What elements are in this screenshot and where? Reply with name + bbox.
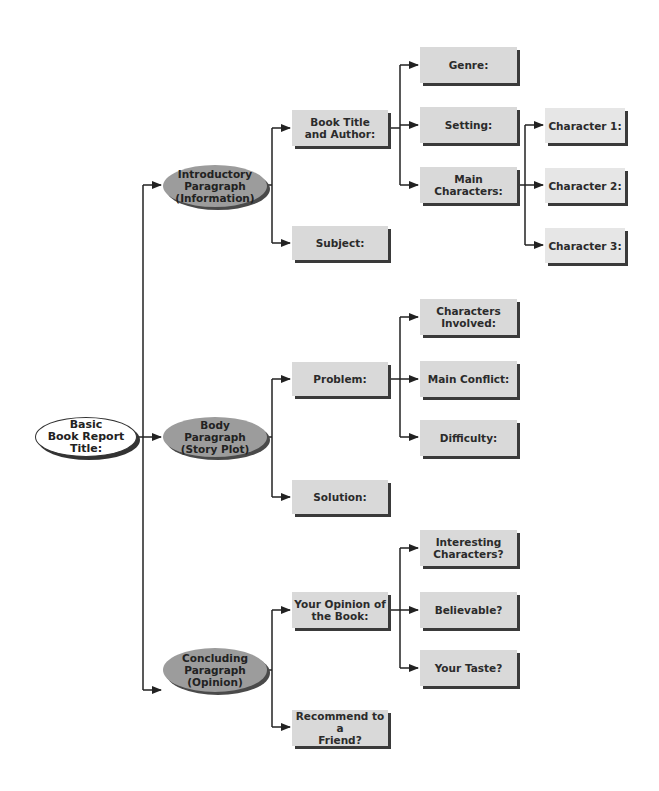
box-subject: Subject:	[292, 226, 388, 260]
box-character-2: Character 2:	[545, 168, 625, 203]
box-main-characters: Main Characters:	[420, 167, 517, 203]
root-node-book-report-title: Basic Book Report Title:	[35, 417, 137, 457]
section-body-paragraph: Body Paragraph (Story Plot)	[163, 417, 267, 457]
box-solution: Solution:	[292, 480, 388, 514]
box-recommend-friend: Recommend to a Friend?	[292, 710, 388, 746]
box-setting: Setting:	[420, 107, 517, 143]
box-genre: Genre:	[420, 47, 517, 83]
box-interesting-characters: Interesting Characters?	[420, 530, 517, 566]
section-concluding-paragraph: Concluding Paragraph (Opinion)	[163, 648, 267, 692]
box-your-opinion: Your Opinion of the Book:	[292, 592, 388, 628]
section-introductory-paragraph: Introductory Paragraph (Information)	[163, 165, 267, 207]
box-book-title-author: Book Title and Author:	[292, 110, 388, 146]
book-report-diagram: Basic Book Report Title: Introductory Pa…	[0, 0, 659, 791]
box-your-taste: Your Taste?	[420, 650, 517, 686]
box-character-3: Character 3:	[545, 228, 625, 263]
box-problem: Problem:	[292, 362, 388, 396]
box-difficulty: Difficulty:	[420, 420, 517, 456]
box-character-1: Character 1:	[545, 108, 625, 143]
box-characters-involved: Characters Involved:	[420, 299, 517, 335]
box-main-conflict: Main Conflict:	[420, 361, 517, 397]
box-believable: Believable?	[420, 592, 517, 628]
